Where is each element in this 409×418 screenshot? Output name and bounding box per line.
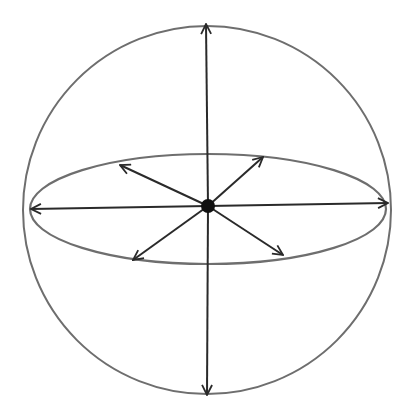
center-point	[201, 199, 215, 213]
sphere-diagram	[0, 0, 409, 418]
vector-arrow-down	[207, 206, 208, 395]
